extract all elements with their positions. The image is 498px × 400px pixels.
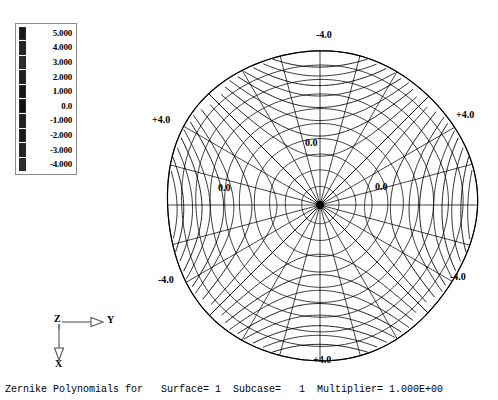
contour-label-mid-left: 0.0 (218, 183, 231, 193)
contour-label-left: +4.0 (152, 115, 170, 125)
mesh-spoke (186, 205, 320, 282)
legend-swatch (19, 56, 26, 70)
contour-legend: 5.0004.0003.0002.0001.0000.0-1.000-2.000… (15, 23, 77, 175)
contour-label-bottom: +4.0 (313, 355, 331, 365)
coordinate-triad: Z Y X (48, 312, 128, 372)
legend-swatch (19, 41, 26, 55)
legend-row: 4.000 (19, 41, 74, 56)
contour-line (229, 80, 409, 120)
triad-horizontal-label: Y (107, 314, 114, 325)
contour-line (442, 138, 458, 271)
legend-swatch (19, 143, 26, 157)
legend-swatch (19, 85, 26, 99)
mesh-spoke (242, 205, 320, 340)
legend-swatch (19, 129, 26, 143)
legend-row: 2.000 (19, 70, 74, 85)
contour-plot-svg (150, 20, 490, 370)
mesh-spoke (320, 205, 470, 245)
legend-label: 4.000 (29, 43, 74, 52)
mesh-spoke (320, 56, 360, 205)
legend-row: -4.000 (19, 157, 74, 172)
contour-label-right: +4.0 (456, 110, 474, 120)
triad-y-arrowhead (91, 318, 103, 327)
legend-row: 0.0 (19, 99, 74, 114)
triad-vertical-label: X (55, 358, 62, 369)
legend-row: 5.000 (19, 26, 74, 41)
contour-line (434, 131, 455, 278)
legend-swatch (19, 158, 26, 172)
legend-label: -4.000 (29, 160, 74, 169)
contour-line (222, 254, 417, 315)
triad-origin-label: Z (53, 313, 62, 324)
legend-label: -1.000 (29, 116, 74, 125)
legend-swatch (19, 27, 26, 41)
contour-line (229, 290, 409, 329)
mesh-spoke (320, 164, 472, 205)
contour-label-mid-right: 0.0 (375, 182, 388, 192)
contour-label-bottom-left: -4.0 (158, 275, 174, 285)
mesh-spoke (184, 126, 320, 205)
legend-label: -2.000 (29, 131, 74, 140)
contour-label-center-upper: 0.0 (305, 138, 318, 148)
legend-label: -3.000 (29, 146, 74, 155)
legend-row: -1.000 (19, 114, 74, 129)
legend-row: -2.000 (19, 128, 74, 143)
contour-label-bottom-right: -4.0 (450, 272, 466, 282)
legend-swatch (19, 114, 26, 128)
mesh-spoke (320, 205, 397, 339)
contour-line (221, 94, 417, 156)
mesh-spoke (170, 165, 320, 205)
legend-swatch (19, 70, 26, 84)
contour-label-top: -4.0 (316, 30, 332, 40)
contour-line (173, 157, 184, 252)
legend-label: 0.0 (29, 102, 74, 111)
legend-label: 1.000 (29, 87, 74, 96)
legend-row: -3.000 (19, 143, 74, 158)
legend-row: 1.000 (19, 84, 74, 99)
mesh-spoke (320, 205, 360, 356)
center-node (316, 201, 324, 209)
contour-line (225, 87, 413, 136)
plot-canvas: 5.0004.0003.0002.0001.0000.0-1.000-2.000… (0, 0, 498, 400)
legend-row: 3.000 (19, 55, 74, 70)
legend-label: 3.000 (29, 58, 74, 67)
contour-plot: -4.0+4.0+4.0-4.0-4.0+4.00.00.00.0 (150, 20, 490, 370)
legend-label: 2.000 (29, 73, 74, 82)
status-bar: Zernike Polynomials for Surface= 1 Subca… (0, 384, 498, 396)
legend-swatch (19, 99, 26, 113)
legend-label: 5.000 (29, 29, 74, 38)
